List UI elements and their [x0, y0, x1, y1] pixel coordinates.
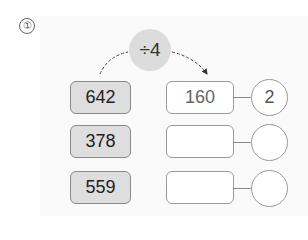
quotient-input[interactable]: [166, 125, 234, 158]
connector-line: [233, 142, 251, 143]
remainder-input[interactable]: 2: [251, 79, 288, 116]
dividend-box: 378: [70, 125, 131, 158]
remainder-input[interactable]: [251, 124, 288, 161]
connector-line: [233, 97, 251, 98]
quotient-input[interactable]: 160: [166, 81, 234, 114]
quotient-input[interactable]: [166, 171, 234, 204]
dividend-box: 642: [70, 81, 131, 114]
dividend-box: 559: [70, 171, 131, 204]
divide-by-4-operator: ÷4: [129, 29, 171, 71]
remainder-input[interactable]: [251, 170, 288, 207]
connector-line: [233, 188, 251, 189]
